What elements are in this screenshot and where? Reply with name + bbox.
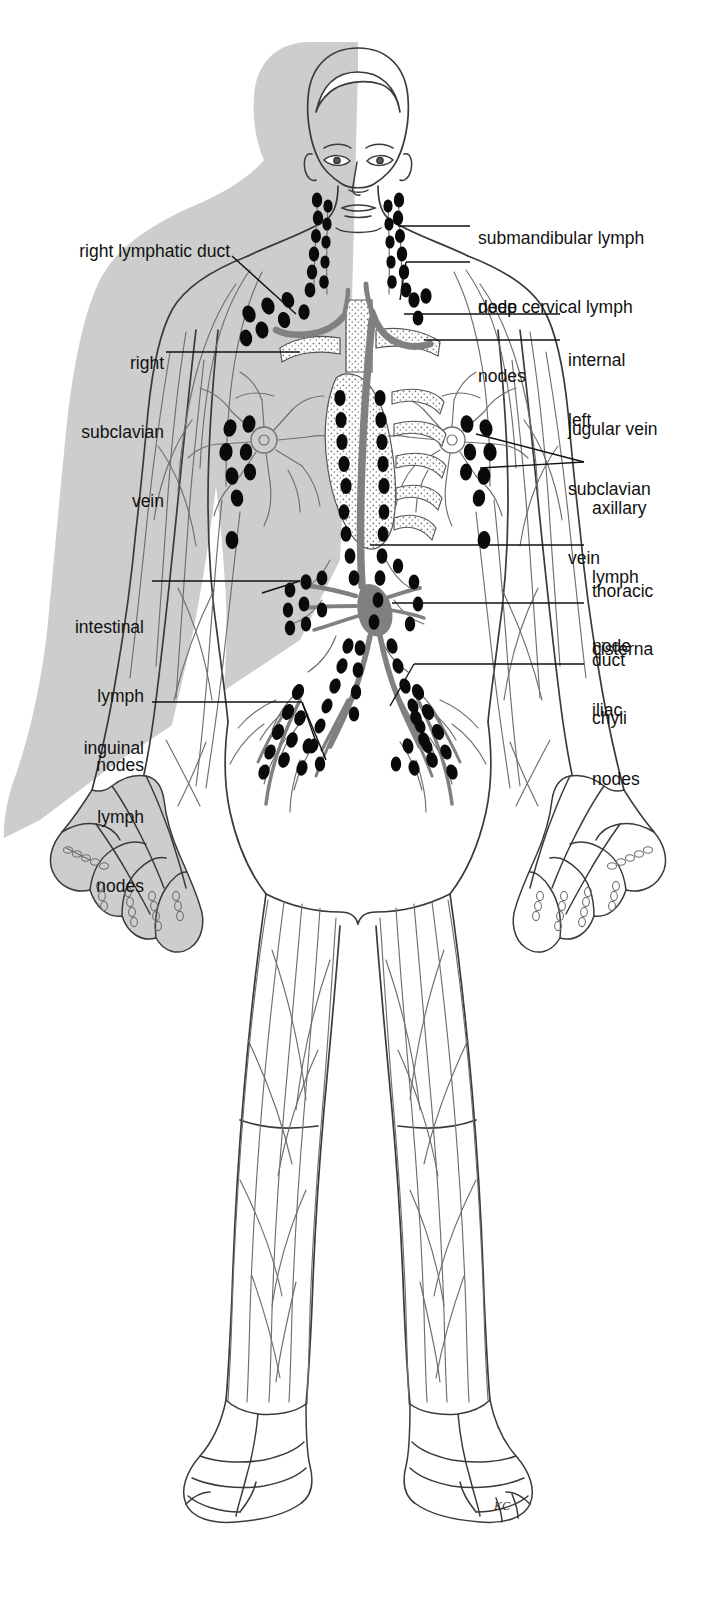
label-line: axillary xyxy=(592,497,716,520)
label-line: lymph xyxy=(20,806,144,829)
label-right-subclavian-vein: right subclavian vein xyxy=(30,306,164,536)
label-line: nodes xyxy=(20,875,144,898)
label-line: left xyxy=(568,409,716,432)
label-line: inguinal xyxy=(20,737,144,760)
label-line: right xyxy=(30,352,164,375)
label-inguinal-lymph-nodes: inguinal lymph nodes xyxy=(20,691,144,921)
label-line: vein xyxy=(30,490,164,513)
label-line: nodes xyxy=(592,768,716,791)
label-line: iliac xyxy=(592,699,716,722)
artist-signature: KC xyxy=(493,1499,511,1513)
label-iliac-nodes: iliac nodes xyxy=(592,653,716,814)
label-line: submandibular lymph xyxy=(478,227,708,250)
lymphatic-system-diagram: KC right lymphatic duct right subclavian… xyxy=(0,0,717,1597)
feet xyxy=(184,1400,533,1522)
label-line: subclavian xyxy=(30,421,164,444)
left-foot xyxy=(184,1400,312,1522)
right-foot xyxy=(404,1400,532,1522)
label-right-lymphatic-duct: right lymphatic duct xyxy=(30,240,230,263)
label-line: intestinal xyxy=(20,616,144,639)
